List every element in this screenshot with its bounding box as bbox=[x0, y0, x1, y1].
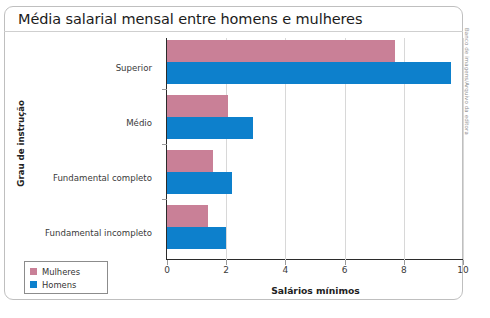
x-tick-label-8: 8 bbox=[401, 265, 407, 275]
x-tick-label-4: 4 bbox=[283, 265, 289, 275]
x-axis-tick-6 bbox=[345, 260, 346, 265]
x-tick-label-10: 10 bbox=[457, 265, 468, 275]
legend-swatch-homens-icon bbox=[30, 281, 37, 288]
y-axis-tick-0 bbox=[162, 89, 167, 90]
bar-mulheres-3 bbox=[167, 205, 208, 227]
x-tick-label-2: 2 bbox=[223, 265, 229, 275]
y-category-label-fundamental-incompleto: Fundamental incompleto bbox=[45, 228, 152, 238]
y-axis-tick-2 bbox=[162, 199, 167, 200]
x-axis-tick-2 bbox=[226, 260, 227, 265]
x-tick-label-6: 6 bbox=[342, 265, 348, 275]
legend-label-mulheres: Mulheres bbox=[42, 267, 80, 277]
y-axis-tick-1 bbox=[162, 144, 167, 145]
x-axis-tick-8 bbox=[404, 260, 405, 265]
bar-mulheres-0 bbox=[167, 40, 395, 62]
x-axis-tick-10 bbox=[463, 260, 464, 265]
legend-label-homens: Homens bbox=[42, 280, 76, 290]
x-axis-tick-4 bbox=[285, 260, 286, 265]
bar-homens-3 bbox=[167, 227, 226, 249]
legend-item-homens[interactable]: Homens bbox=[30, 278, 102, 291]
image-credit: Banco de imagens/Arquivo da editora bbox=[464, 28, 470, 178]
bar-homens-1 bbox=[167, 117, 253, 139]
bar-homens-2 bbox=[167, 172, 232, 194]
legend-swatch-mulheres-icon bbox=[30, 268, 37, 275]
gridline-x-10 bbox=[463, 38, 464, 260]
bar-homens-0 bbox=[167, 62, 451, 84]
chart-legend: Mulheres Homens bbox=[24, 261, 108, 294]
bar-mulheres-2 bbox=[167, 150, 213, 172]
legend-item-mulheres[interactable]: Mulheres bbox=[30, 265, 102, 278]
x-tick-label-0: 0 bbox=[164, 265, 170, 275]
plot-area bbox=[167, 38, 463, 260]
x-axis-tick-0 bbox=[167, 260, 168, 265]
y-category-label-medio: Médio bbox=[126, 118, 152, 128]
bar-mulheres-1 bbox=[167, 95, 228, 117]
x-axis-title: Salários mínimos bbox=[167, 285, 464, 296]
y-category-label-superior: Superior bbox=[116, 63, 152, 73]
y-category-label-fundamental-completo: Fundamental completo bbox=[53, 173, 152, 183]
y-axis-title: Grau de instrução bbox=[16, 100, 26, 187]
